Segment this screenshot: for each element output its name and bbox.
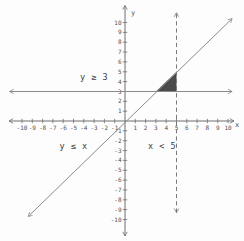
y-tick-label: -4 — [114, 156, 122, 163]
x-tick-label: 3 — [154, 124, 158, 131]
y-tick-label: 1 — [118, 107, 122, 114]
x-tick-label: 10 — [224, 124, 232, 131]
y-tick-label: 7 — [118, 48, 122, 55]
y-tick-label: -1 — [114, 127, 122, 134]
x-tick-label: -3 — [90, 124, 98, 131]
x-tick-label: 7 — [195, 124, 199, 131]
x-tick-label: 1 — [133, 124, 137, 131]
y-tick-label: -3 — [114, 147, 122, 154]
x-tick-label: -10 — [17, 124, 28, 131]
x-tick-label: -4 — [80, 124, 88, 131]
y-tick-label: -10 — [111, 216, 122, 223]
x-tick-label: -6 — [60, 124, 68, 131]
label-y-greater-equal-3: y ≥ 3 — [80, 72, 108, 82]
label-y-less-equal-x: y ≤ x — [59, 141, 87, 151]
y-tick-label: 9 — [118, 28, 122, 35]
x-tick-label: -8 — [39, 124, 47, 131]
plot-layer: -10-9-8-7-6-5-4-3-2-112345678910-10-9-8-… — [9, 6, 234, 237]
x-tick-label: 8 — [206, 124, 210, 131]
solution-region-triangle — [156, 72, 177, 92]
y-tick-label: 6 — [118, 58, 122, 65]
y-tick-label: -9 — [114, 206, 122, 213]
label-x-less-than-5: x < 5 — [148, 141, 176, 151]
x-tick-label: -9 — [29, 124, 37, 131]
x-tick-label: -5 — [70, 124, 78, 131]
y-axis-letter: y — [131, 9, 135, 17]
y-tick-label: 10 — [114, 19, 122, 26]
x-tick-label: -7 — [49, 124, 57, 131]
boundary-line-1 — [28, 19, 232, 217]
y-tick-label: 5 — [118, 68, 122, 75]
x-tick-label: 6 — [185, 124, 189, 131]
x-tick-label: 2 — [144, 124, 148, 131]
y-tick-label: -2 — [114, 137, 122, 144]
inequality-graph-figure: -10-9-8-7-6-5-4-3-2-112345678910-10-9-8-… — [0, 0, 244, 241]
x-tick-label: 9 — [216, 124, 220, 131]
y-tick-label: -7 — [114, 186, 122, 193]
y-tick-label: -6 — [114, 176, 122, 183]
x-tick-label: 4 — [164, 124, 168, 131]
y-tick-label: -5 — [114, 166, 122, 173]
y-tick-label: 4 — [118, 78, 122, 85]
coordinate-plane: -10-9-8-7-6-5-4-3-2-112345678910-10-9-8-… — [0, 0, 244, 241]
y-tick-label: 2 — [118, 97, 122, 104]
y-tick-label: -8 — [114, 196, 122, 203]
x-tick-label: -2 — [101, 124, 109, 131]
y-tick-label: 8 — [118, 38, 122, 45]
x-axis-letter: x — [235, 121, 239, 129]
